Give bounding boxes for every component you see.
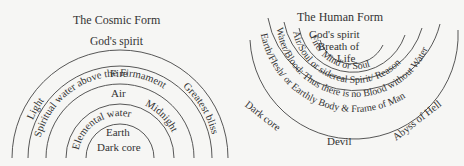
cosmic-form: The Cosmic Form God's spirit Light Great… — [12, 13, 228, 158]
cosmology-diagram: The Cosmic Form God's spirit Light Great… — [0, 0, 464, 166]
human-form: The Human Form God's spirit Breath of Li… — [243, 10, 458, 147]
human-dark-core: Dark core — [243, 99, 283, 134]
cosmic-fire: Fire — [110, 67, 128, 79]
cosmic-midnight: Midnight — [144, 98, 180, 134]
cosmic-title: The Cosmic Form — [73, 13, 161, 27]
cosmic-gods-spirit: God's spirit — [90, 35, 144, 48]
cosmic-air: Air — [111, 87, 126, 99]
cosmic-earth: Earth — [106, 126, 130, 138]
cosmic-dark-core: Dark core — [97, 141, 141, 153]
human-title: The Human Form — [297, 10, 384, 24]
human-devil: Devil — [327, 135, 351, 147]
human-abyss: Abyss of Hell — [390, 98, 443, 143]
